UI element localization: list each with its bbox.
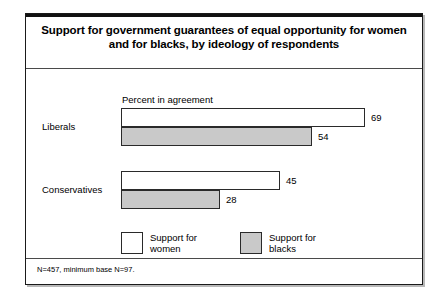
legend-swatch-women-icon <box>121 232 143 254</box>
bar-conservatives-blacks <box>121 190 220 209</box>
axis-note: Percent in agreement <box>122 94 213 105</box>
bars-conservatives: 45 28 <box>121 171 422 209</box>
bar-value-conservatives-women: 45 <box>286 175 297 186</box>
legend-label-women: Support for women <box>150 232 214 254</box>
plot-area: Percent in agreement Liberals 69 54 Cons… <box>26 66 422 284</box>
category-label-liberals: Liberals <box>42 121 75 132</box>
figure-panel: Support for government guarantees of equ… <box>25 13 423 285</box>
title-band: Support for government guarantees of equ… <box>26 14 422 65</box>
bar-liberals-women <box>121 108 365 127</box>
bar-conservatives-women <box>121 171 280 190</box>
bar-value-conservatives-blacks: 28 <box>226 194 237 205</box>
legend-item-women: Support for women <box>121 232 214 254</box>
bar-row: 28 <box>121 190 422 209</box>
bars-liberals: 69 54 <box>121 108 422 146</box>
bar-value-liberals-women: 69 <box>371 112 382 123</box>
category-label-conservatives: Conservatives <box>42 184 102 195</box>
legend-item-blacks: Support for blacks <box>240 232 333 254</box>
bar-value-liberals-blacks: 54 <box>318 131 329 142</box>
bar-row: 54 <box>121 127 422 146</box>
bar-liberals-blacks <box>121 127 312 146</box>
legend-swatch-blacks-icon <box>240 232 262 254</box>
page-title: Support for government guarantees of equ… <box>38 23 410 51</box>
bar-row: 45 <box>121 171 422 190</box>
footnote-divider <box>26 258 422 259</box>
bar-row: 69 <box>121 108 422 127</box>
footnote: N=457, minimum base N=97. <box>37 265 135 275</box>
legend: Support for women Support for blacks <box>121 232 359 254</box>
legend-label-blacks: Support for blacks <box>269 232 333 254</box>
